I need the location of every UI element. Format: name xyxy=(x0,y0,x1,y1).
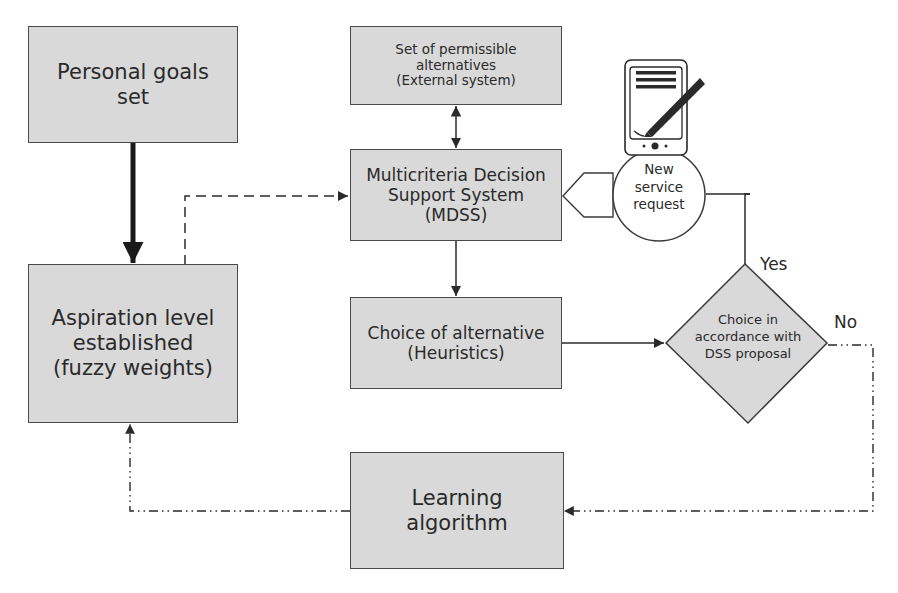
service-request-label: New service request xyxy=(614,161,704,214)
line-decision-yes xyxy=(745,194,750,264)
node-personal-goals[interactable]: Personal goals set xyxy=(28,26,238,143)
node-choice-of-alternative[interactable]: Choice of alternative (Heuristics) xyxy=(350,297,562,389)
node-aspiration[interactable]: Aspiration level established (fuzzy weig… xyxy=(28,264,238,423)
node-permissible-alternatives[interactable]: Set of permissible alternatives (Externa… xyxy=(350,26,562,105)
node-aspiration-label: Aspiration level established (fuzzy weig… xyxy=(52,306,215,380)
decision-label: Choice in accordance with DSS proposal xyxy=(680,312,816,363)
request-pointer-shape xyxy=(563,173,613,217)
tablet-pen-icon xyxy=(625,60,705,155)
edge-label-no: No xyxy=(834,312,857,332)
node-learning-label: Learning algorithm xyxy=(406,486,507,536)
arrow-aspiration-to-mdss xyxy=(185,196,348,265)
node-permissible-label: Set of permissible alternatives (Externa… xyxy=(395,42,516,90)
node-choice-alt-label: Choice of alternative (Heuristics) xyxy=(368,323,545,363)
node-personal-goals-label: Personal goals set xyxy=(57,60,209,110)
node-mdss[interactable]: Multicriteria Decision Support System (M… xyxy=(350,149,562,241)
edge-label-yes: Yes xyxy=(760,254,787,274)
node-mdss-label: Multicriteria Decision Support System (M… xyxy=(366,165,546,225)
node-learning-algorithm[interactable]: Learning algorithm xyxy=(350,452,564,569)
arrow-learning-to-aspiration xyxy=(130,424,350,511)
